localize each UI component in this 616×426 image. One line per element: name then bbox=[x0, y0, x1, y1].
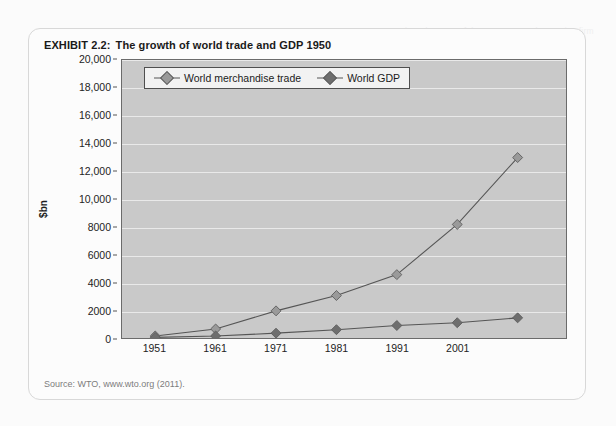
y-axis-title: $bn bbox=[38, 200, 49, 218]
y-axis-tick-label: 16,000 bbox=[79, 109, 111, 121]
data-point-marker bbox=[271, 328, 281, 338]
x-axis-tick-label: 1971 bbox=[264, 342, 287, 354]
y-axis-tick-label: 14,000 bbox=[79, 137, 111, 149]
chart-area: $bn 0200040006000800010,00012,00014,0001… bbox=[41, 59, 575, 359]
y-axis-tick-mark bbox=[113, 227, 117, 228]
y-axis-labels: 0200040006000800010,00012,00014,00016,00… bbox=[55, 59, 117, 339]
y-axis-tick-label: 12,000 bbox=[79, 165, 111, 177]
y-axis-tick-mark bbox=[113, 199, 117, 200]
source-note: Source: WTO, www.wto.org (2011). bbox=[44, 379, 185, 389]
data-point-marker bbox=[331, 325, 341, 335]
y-axis-tick-label: 2000 bbox=[88, 305, 111, 317]
series-lines bbox=[122, 60, 566, 339]
x-axis-tick-label: 1981 bbox=[325, 342, 348, 354]
data-point-marker bbox=[513, 313, 523, 323]
y-axis-tick-mark bbox=[113, 59, 117, 60]
legend-item-trade: World merchandise trade bbox=[154, 72, 301, 84]
x-axis-labels: 195119611971198119912001 bbox=[121, 342, 567, 360]
y-axis-tick-mark bbox=[113, 87, 117, 88]
x-axis-tick-label: 1991 bbox=[385, 342, 408, 354]
x-axis-tick-label: 2001 bbox=[446, 342, 469, 354]
y-axis-tick-label: 4000 bbox=[88, 277, 111, 289]
plot-canvas: World merchandise trade World GDP bbox=[121, 59, 567, 339]
y-axis-tick-label: 18,000 bbox=[79, 81, 111, 93]
chart-legend: World merchandise trade World GDP bbox=[144, 67, 410, 89]
y-axis-tick-mark bbox=[113, 311, 117, 312]
legend-marker-trade-icon bbox=[154, 73, 180, 83]
series-line bbox=[155, 158, 517, 336]
y-axis-tick-label: 6000 bbox=[88, 249, 111, 261]
page-background: EXHIBIT 2.1 The relevance of the custome… bbox=[0, 0, 616, 426]
legend-marker-gdp-icon bbox=[317, 73, 343, 83]
y-axis-tick-label: 8000 bbox=[88, 221, 111, 233]
y-axis-tick-label: 20,000 bbox=[79, 53, 111, 65]
data-point-marker bbox=[452, 318, 462, 328]
data-point-marker bbox=[211, 331, 221, 339]
x-axis-tick-label: 1951 bbox=[143, 342, 166, 354]
legend-label-trade: World merchandise trade bbox=[184, 72, 301, 84]
x-axis-tick-label: 1961 bbox=[203, 342, 226, 354]
data-point-marker bbox=[331, 291, 341, 301]
y-axis-tick-mark bbox=[113, 171, 117, 172]
data-point-marker bbox=[392, 321, 402, 331]
y-axis-tick-label: 10,000 bbox=[79, 193, 111, 205]
y-axis-tick-mark bbox=[113, 339, 117, 340]
y-axis-tick-mark bbox=[113, 143, 117, 144]
y-axis-tick-mark bbox=[113, 115, 117, 116]
legend-label-gdp: World GDP bbox=[347, 72, 400, 84]
legend-item-gdp: World GDP bbox=[317, 72, 400, 84]
exhibit-card: EXHIBIT 2.2:The growth of world trade an… bbox=[28, 28, 586, 400]
data-point-marker bbox=[150, 332, 160, 338]
exhibit-number: EXHIBIT 2.2: bbox=[44, 39, 111, 51]
y-axis-tick-label: 0 bbox=[105, 333, 111, 345]
exhibit-title: EXHIBIT 2.2:The growth of world trade an… bbox=[44, 39, 331, 51]
y-axis-tick-mark bbox=[113, 255, 117, 256]
data-point-marker bbox=[271, 306, 281, 316]
y-axis-tick-mark bbox=[113, 283, 117, 284]
exhibit-title-text: The growth of world trade and GDP 1950 bbox=[116, 39, 332, 51]
